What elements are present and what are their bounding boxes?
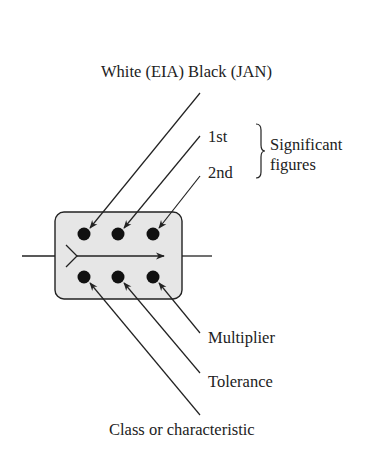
dot-bottom-2	[112, 271, 125, 284]
label-top-type: White (EIA) Black (JAN)	[101, 62, 272, 81]
dot-top-3	[147, 228, 160, 241]
label-multiplier: Multiplier	[208, 328, 275, 347]
label-first: 1st	[208, 127, 228, 146]
leader-type-arrow	[90, 93, 200, 228]
label-significant: Significant	[270, 135, 343, 154]
dot-top-2	[112, 228, 125, 241]
label-tolerance: Tolerance	[208, 372, 273, 391]
capacitor-color-code-diagram: White (EIA) Black (JAN) 1st 2nd Signific…	[0, 0, 372, 458]
brace-icon	[256, 124, 265, 178]
dot-bottom-1	[78, 271, 91, 284]
dot-bottom-3	[147, 271, 160, 284]
label-class: Class or characteristic	[109, 420, 255, 439]
leader-class-arrow	[90, 283, 200, 415]
label-figures: figures	[270, 155, 316, 174]
label-second: 2nd	[208, 163, 234, 182]
dot-top-1	[78, 228, 91, 241]
